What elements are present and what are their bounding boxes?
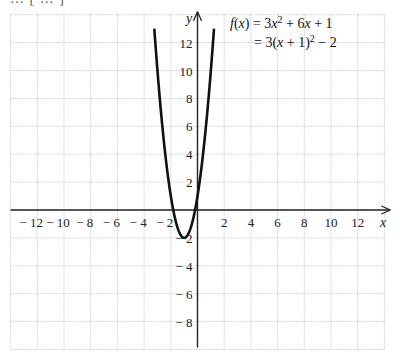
x-tick-label: 10 [325,215,338,230]
equation-line-1: f(x) = 3x2 + 6x + 1 [230,14,333,32]
y-tick-label: 4 [186,147,193,162]
x-tick-label: − 2 [156,215,173,230]
y-tick-label: 2 [186,175,193,190]
y-tick-label: − 4 [175,259,193,274]
y-tick-label: 8 [186,91,193,106]
x-tick-label: 2 [221,215,228,230]
x-tick-label: − 8 [76,215,93,230]
y-tick-label: − 6 [175,287,193,302]
x-tick-label: 12 [351,215,364,230]
x-axis-label: x [379,215,387,230]
x-tick-label: − 4 [130,215,148,230]
y-tick-label: 12 [180,36,193,51]
x-tick-label: − 6 [103,215,121,230]
x-tick-label: − 10 [46,215,70,230]
x-tick-label: 4 [248,215,255,230]
x-tick-label: − 12 [20,215,44,230]
y-axis-label: y [184,11,193,26]
y-tick-label: 10 [180,64,193,79]
x-tick-label: 8 [301,215,308,230]
function-graph: − 12− 10− 8− 6− 4− 22468101212108642− 2−… [0,0,400,363]
x-tick-label: 6 [274,215,281,230]
y-tick-label: − 8 [175,315,192,330]
y-tick-label: 6 [186,119,193,134]
parabola-curve [154,29,214,238]
equation-line-2: = 3(x + 1)2 − 2 [254,33,337,51]
